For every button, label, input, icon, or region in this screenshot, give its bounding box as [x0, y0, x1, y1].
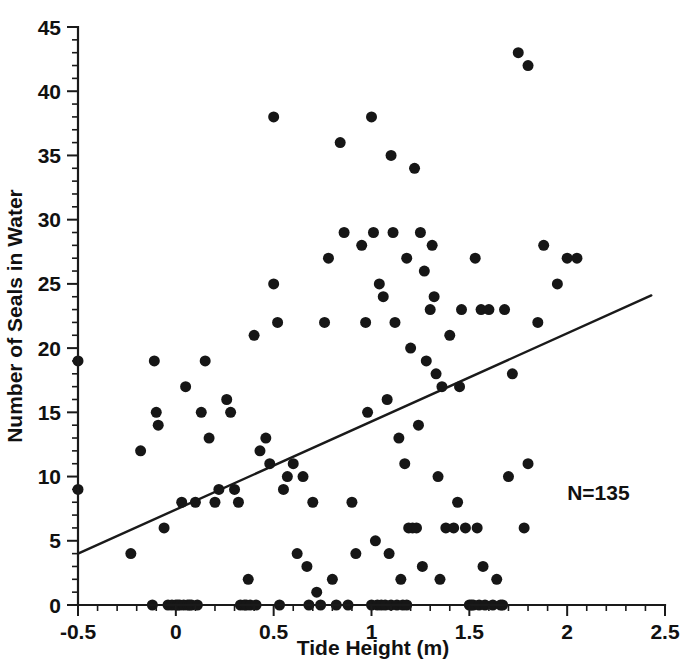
sample-size-annotation: N=135 — [567, 481, 630, 504]
data-point — [384, 548, 395, 559]
data-point — [292, 548, 303, 559]
data-point — [382, 394, 393, 405]
data-point — [552, 278, 563, 289]
x-tick-label: -0.5 — [60, 620, 97, 643]
data-point — [176, 497, 187, 508]
data-point — [254, 445, 265, 456]
data-point — [350, 548, 361, 559]
data-point — [538, 240, 549, 251]
data-point — [434, 574, 445, 585]
data-point — [491, 574, 502, 585]
regression-trendline — [78, 295, 651, 553]
data-point — [460, 522, 471, 533]
data-point — [327, 574, 338, 585]
data-point — [419, 266, 430, 277]
data-point — [288, 458, 299, 469]
y-axis-ticks — [67, 27, 78, 605]
data-point — [268, 278, 279, 289]
y-axis-tick-labels: 051015202530354045 — [38, 16, 62, 617]
data-point — [278, 484, 289, 495]
y-tick-label: 10 — [38, 465, 61, 488]
data-point — [393, 433, 404, 444]
data-point — [311, 587, 322, 598]
data-point — [519, 522, 530, 533]
data-point — [429, 291, 440, 302]
data-point — [233, 497, 244, 508]
y-tick-label: 0 — [49, 594, 61, 617]
data-point — [454, 381, 465, 392]
x-tick-label: 1.5 — [455, 620, 485, 643]
data-point — [523, 60, 534, 71]
data-point — [225, 407, 236, 418]
data-point — [229, 484, 240, 495]
data-point — [260, 433, 271, 444]
data-point — [431, 368, 442, 379]
data-point — [483, 304, 494, 315]
data-point — [356, 240, 367, 251]
data-point — [149, 355, 160, 366]
plot-canvas: 051015202530354045 -0.500.511.522.5 Tide… — [0, 0, 682, 663]
data-point — [301, 561, 312, 572]
x-tick-label: 2.5 — [650, 620, 680, 643]
data-point — [405, 343, 416, 354]
data-point — [135, 445, 146, 456]
y-tick-label: 45 — [38, 16, 62, 39]
data-point — [472, 522, 483, 533]
data-point — [282, 471, 293, 482]
data-point — [213, 484, 224, 495]
data-point — [389, 317, 400, 328]
axes-group: 051015202530354045 -0.500.511.522.5 — [38, 16, 680, 644]
data-point — [409, 163, 420, 174]
data-point — [335, 137, 346, 148]
regression-line — [78, 295, 651, 553]
data-point — [478, 561, 489, 572]
data-point — [366, 111, 377, 122]
y-tick-label: 40 — [38, 80, 61, 103]
data-point — [415, 227, 426, 238]
data-point — [413, 420, 424, 431]
data-point — [125, 548, 136, 559]
data-point — [360, 317, 371, 328]
data-point — [427, 240, 438, 251]
data-point — [200, 355, 211, 366]
data-point — [346, 497, 357, 508]
data-point — [436, 381, 447, 392]
data-point — [513, 47, 524, 58]
data-point — [374, 278, 385, 289]
data-point — [401, 253, 412, 264]
data-point — [249, 330, 260, 341]
data-point — [425, 304, 436, 315]
data-point — [196, 407, 207, 418]
data-point — [388, 227, 399, 238]
data-point — [571, 253, 582, 264]
data-point — [243, 574, 254, 585]
data-point — [339, 227, 350, 238]
data-point — [323, 253, 334, 264]
data-point — [209, 497, 220, 508]
y-tick-label: 30 — [38, 208, 61, 231]
data-point — [395, 574, 406, 585]
data-point — [417, 561, 428, 572]
data-point — [456, 304, 467, 315]
y-tick-label: 5 — [49, 529, 61, 552]
data-point — [298, 471, 309, 482]
data-point — [159, 522, 170, 533]
data-point — [180, 381, 191, 392]
data-point — [499, 304, 510, 315]
data-point — [562, 253, 573, 264]
data-point — [452, 497, 463, 508]
data-point — [151, 407, 162, 418]
data-point — [378, 291, 389, 302]
y-tick-label: 35 — [38, 144, 62, 167]
data-point — [204, 433, 215, 444]
data-point — [411, 522, 422, 533]
x-tick-label: 2 — [561, 620, 573, 643]
y-tick-label: 25 — [38, 272, 62, 295]
data-point — [370, 535, 381, 546]
data-point — [386, 150, 397, 161]
data-point — [507, 368, 518, 379]
data-point — [523, 458, 534, 469]
data-point — [433, 471, 444, 482]
x-axis-title: Tide Height (m) — [297, 636, 449, 659]
data-point — [190, 497, 201, 508]
